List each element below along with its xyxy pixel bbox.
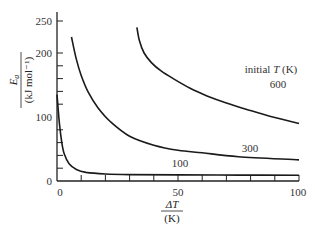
ytick-label-200: 200 (36, 47, 53, 59)
y-axis-label: Ea (kJ mol⁻¹) (7, 52, 35, 108)
series-label-600: 600 (270, 78, 287, 90)
legend-title: initial T (K) (245, 63, 298, 76)
series-lines (57, 27, 299, 175)
series-label-300: 300 (242, 142, 259, 154)
series-labels: initial T (K) 600 300 100 (172, 63, 298, 169)
xtick-label-50: 50 (173, 186, 185, 198)
series-line-300 (72, 37, 300, 160)
x-tick-labels: 0 50 100 (57, 186, 307, 198)
ytick-label-0: 0 (47, 175, 53, 187)
x-axis-label-denominator: (K) (164, 212, 180, 225)
xtick-label-100: 100 (290, 186, 307, 198)
x-axis-label: ΔT (K) (161, 198, 183, 225)
y-axis-label-denominator: (kJ mol⁻¹) (22, 57, 35, 104)
axes (57, 12, 299, 181)
xtick-label-0: 0 (57, 186, 63, 198)
x-axis-label-numerator: ΔT (165, 198, 179, 210)
ytick-label-100: 100 (36, 111, 53, 123)
series-label-100: 100 (172, 157, 189, 169)
y-tick-labels: 250 200 100 0 (36, 15, 53, 187)
chart: 250 200 100 0 0 50 100 ΔT (K) Ea (kJ mol… (0, 0, 315, 228)
series-line-600 (137, 27, 299, 123)
y-axis-label-numerator: Ea (7, 75, 21, 87)
ytick-label-250: 250 (36, 15, 53, 27)
